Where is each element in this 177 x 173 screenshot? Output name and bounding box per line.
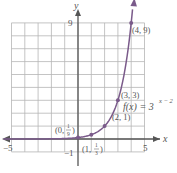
data-point (89, 133, 93, 137)
x-axis-label: x (162, 133, 168, 144)
point-label-4-9: (4, 9) (132, 25, 151, 35)
x-max-tick-label: 5 (143, 143, 148, 153)
svg-text:): ) (72, 125, 75, 135)
data-point (76, 136, 80, 140)
svg-text:(1,: (1, (82, 144, 91, 154)
svg-text:): ) (100, 144, 103, 154)
svg-text:x − 2: x − 2 (158, 97, 174, 104)
x-axis-arrow-right (153, 136, 160, 142)
data-point (116, 98, 120, 102)
svg-text:3: 3 (95, 150, 98, 156)
point-label-2-1: (2, 1) (112, 112, 131, 122)
y-min-tick-label: −1 (64, 148, 74, 158)
svg-text:1: 1 (95, 142, 98, 148)
svg-text:f(x) = 3: f(x) = 3 (123, 101, 154, 113)
exponential-function-graph: y x 9 −1 −5 5 (4, 9) (3, 3) (2, 1) (0, 1… (0, 0, 177, 173)
data-point (103, 124, 107, 128)
svg-text:1: 1 (67, 123, 70, 129)
y-axis-label: y (73, 0, 79, 11)
point-label-3-3: (3, 3) (121, 90, 140, 100)
point-label-1-third: (1, 1 3 ) (82, 142, 103, 156)
curve-arrow-up (130, 0, 137, 7)
x-min-tick-label: −5 (3, 143, 13, 153)
svg-text:9: 9 (67, 131, 70, 137)
svg-text:(0,: (0, (55, 125, 64, 135)
y-max-tick-label: 9 (68, 18, 73, 28)
